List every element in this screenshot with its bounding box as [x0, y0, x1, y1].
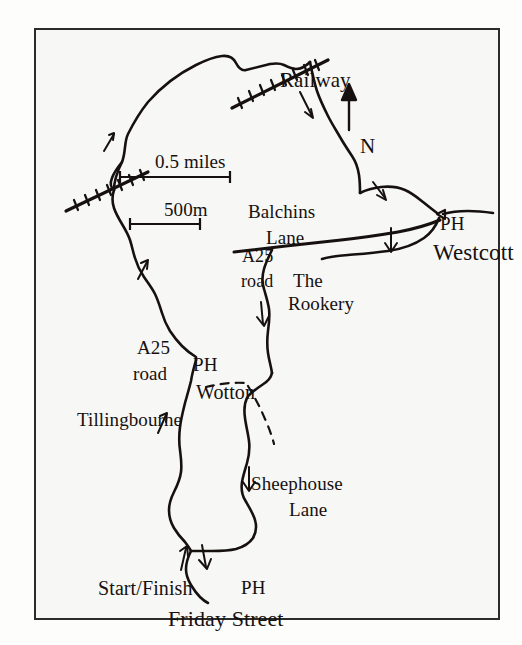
label-ph-friday-street: PH [241, 578, 266, 597]
map-frame-border: Railway N 0.5 miles 500m Balchins Lane A… [34, 28, 500, 620]
label-tillingbourne: Tillingbourne [77, 410, 182, 429]
label-balchins-lane: Lane [266, 228, 304, 247]
label-scale-half-mile: 0.5 miles [155, 152, 226, 171]
direction-arrow-nw [104, 133, 114, 151]
label-start-finish: Start/Finish [98, 578, 193, 598]
direction-arrow-balchins-e [373, 182, 386, 200]
map-page: Railway N 0.5 miles 500m Balchins Lane A… [0, 0, 522, 645]
label-wotton: Wotton [196, 382, 255, 402]
label-rookery: Rookery [288, 294, 354, 313]
label-scale-500m: 500m [164, 200, 208, 219]
label-ph-wotton: PH [193, 355, 218, 374]
label-sheephouse-lane: Lane [289, 500, 327, 519]
label-sheephouse: Sheephouse [251, 474, 343, 493]
label-road-lower: road [133, 364, 167, 383]
direction-arrow-railway-se [300, 92, 313, 118]
label-balchins: Balchins [248, 202, 315, 221]
label-north: N [360, 136, 375, 157]
label-westcott: Westcott [433, 241, 514, 264]
map-drawing-canvas [36, 30, 502, 622]
label-the: The [293, 271, 323, 290]
scale-bar-miles [120, 171, 230, 183]
label-railway: Railway [280, 70, 351, 91]
walking-route-path [111, 56, 493, 603]
label-friday-street: Friday Street [168, 608, 284, 630]
label-a25-upper: A25 [242, 247, 273, 265]
label-road-upper: road [241, 272, 273, 290]
label-ph-westcott: PH [440, 214, 465, 233]
direction-arrow-finish-s [199, 545, 211, 569]
label-a25-lower: A25 [137, 338, 170, 357]
direction-arrows [104, 92, 397, 570]
